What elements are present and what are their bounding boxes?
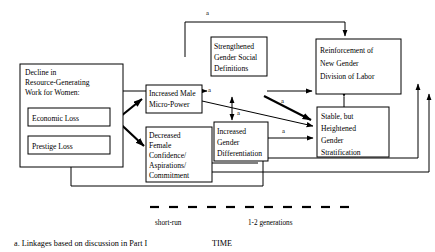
box-differentiation-line-1: Increased [217,127,246,136]
link-marker-male-power-right: a [208,86,211,93]
box-female-line-5: Commitment [149,171,190,180]
box-reinforcement-new-gender-division-of-labor[interactable]: Reinforcement of New Gender Division of … [316,39,401,94]
box-stratification-line-1: Stable, but [321,112,354,121]
box-male-power-line-1: Increased Male [149,89,196,98]
box-female-line-2: Female [149,141,172,150]
box-stratification-line-4: Stratification [321,148,361,157]
link-marker-differentiation-to-stable: a [282,127,285,134]
footnote-linkages: a. Linkages based on discussion in Part … [14,239,148,248]
box-differentiation-line-2: Gender [217,138,240,147]
box-stratification-line-3: Gender [321,136,344,145]
box-increased-male-micro-power[interactable]: Increased Male Micro-Power [146,85,202,113]
timeline-label-generations: 1-2 generations [248,219,293,227]
box-definitions-line-1: Strengthened [214,42,254,51]
box-definitions-line-3: Definitions [214,64,248,73]
figure-canvas: Decline in Resource-Generating Work for … [0,0,435,252]
box-decline-line-2: Resource-Generating [25,78,90,87]
box-definitions-line-2: Gender Social [214,53,257,62]
box-prestige-loss-label: Prestige Loss [32,142,73,151]
box-female-line-1: Decreased [149,131,181,140]
box-reinforcement-line-2: New Gender [320,59,359,68]
box-stratification-line-2: Heightened [321,124,356,133]
box-female-line-4: Aspirations/ [149,161,187,170]
box-stable-but-heightened-gender-stratification[interactable]: Stable, but Heightened Gender Stratifica… [317,107,389,157]
link-marker-top: a [206,9,209,16]
timeline-label-short-run: short-run [155,219,182,227]
box-economic-loss-label: Economic Loss [32,114,79,123]
flow-diagram: Decline in Resource-Generating Work for … [0,0,435,252]
box-decline-line-1: Decline in [25,68,57,77]
axis-title-time: TIME [212,239,232,248]
box-male-power-line-2: Micro-Power [149,100,190,109]
box-reinforcement-line-1: Reinforcement of [320,46,374,55]
box-decreased-female-confidence[interactable]: Decreased Female Confidence/ Aspirations… [146,127,212,182]
box-differentiation-line-3: Differentiation [217,149,262,158]
link-marker-definitions-to-stable: a [281,97,284,104]
box-reinforcement-line-3: Division of Labor [320,72,375,81]
box-prestige-loss[interactable]: Prestige Loss [28,136,110,154]
box-female-line-3: Confidence/ [149,151,187,160]
box-strengthened-gender-social-definitions[interactable]: Strengthened Gender Social Definitions [211,37,267,76]
box-decline-line-3: Work for Women: [25,88,80,97]
link-marker-differentiation-up: a [237,109,240,116]
box-economic-loss[interactable]: Economic Loss [28,108,110,126]
box-increased-gender-differentiation[interactable]: Increased Gender Differentiation [214,122,268,161]
